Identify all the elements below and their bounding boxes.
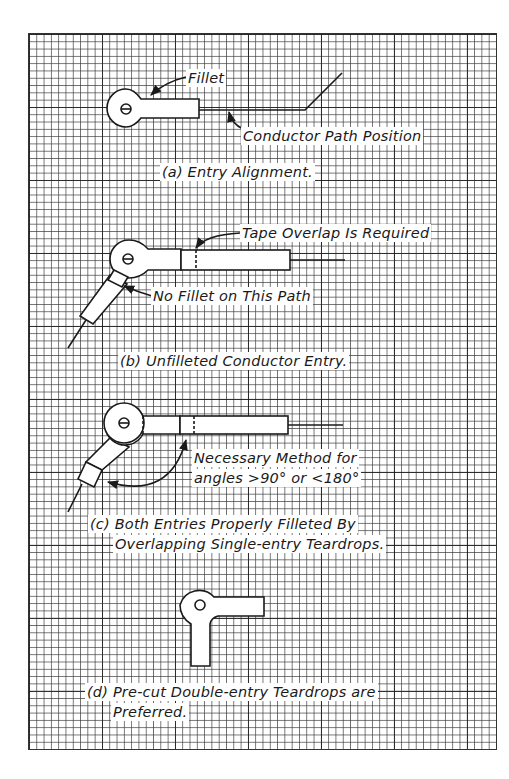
caption-d-line2: Preferred. [111,703,189,721]
callout-no-fillet: No Fillet on This Path [151,287,313,305]
teardrop-pad-b [110,240,181,278]
tape-overlap-arrow [196,233,240,248]
callout-necessary-method-line2: angles >90° or <180° [192,469,361,487]
pad-hole-icon [195,600,205,610]
caption-a: (a) Entry Alignment. [160,163,315,181]
no-fillet-arrow [124,286,152,296]
panel-d-drawing [180,590,264,666]
caption-b: (b) Unfilleted Conductor Entry. [118,352,349,370]
tape-segment-b [181,250,290,270]
caption-c-line2: Overlapping Single-entry Teardrops. [113,535,386,553]
diagram-canvas: Fillet Conductor Path Position (a) Entry… [0,0,509,779]
callout-necessary-method-line1: Necessary Method for [192,449,359,467]
diagram-drawing [0,0,509,779]
callout-tape-overlap: Tape Overlap Is Required [240,224,431,242]
callout-fillet: Fillet [186,69,226,87]
tape-segment-c [180,416,288,434]
callout-conductor-path-position: Conductor Path Position [241,127,423,145]
caption-c-line1: (c) Both Entries Properly Filleted By [88,515,358,533]
caption-d-line1: (d) Pre-cut Double-entry Teardrops are [85,683,378,701]
fillet-arrow [151,77,186,95]
double-entry-teardrop [180,590,264,666]
